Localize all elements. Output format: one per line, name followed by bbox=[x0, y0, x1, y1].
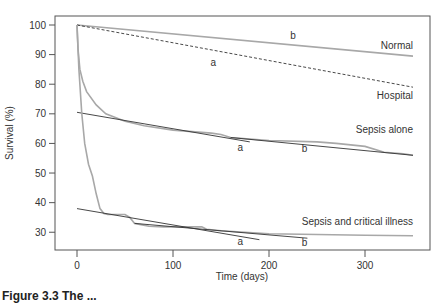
annotation-label: Hospital bbox=[377, 90, 413, 101]
annotation-label: a bbox=[211, 57, 217, 68]
annotation-label: Sepsis and critical illness bbox=[302, 216, 413, 227]
series-sepsis-alone-fit-b bbox=[231, 138, 413, 156]
annotation-label: Sepsis alone bbox=[356, 124, 414, 135]
annotation-label: a bbox=[237, 142, 243, 153]
x-tick-label: 200 bbox=[261, 260, 278, 271]
y-tick-label: 40 bbox=[35, 197, 47, 208]
y-tick-label: 80 bbox=[35, 79, 47, 90]
annotation-label: b bbox=[290, 30, 296, 41]
series-sepsis-and-critical-illness-fit-a bbox=[77, 209, 259, 240]
series-sepsis-alone-fit-a bbox=[77, 112, 250, 142]
series-sepsis-and-critical-illness-fit-b bbox=[135, 223, 308, 238]
series-hospital bbox=[77, 25, 413, 87]
y-axis-label: Survival (%) bbox=[4, 106, 15, 160]
figure-caption: Figure 3.3 The ... bbox=[2, 289, 97, 303]
annotation-label: Normal bbox=[381, 40, 413, 51]
x-axis-label: Time (days) bbox=[216, 271, 268, 282]
y-tick-label: 70 bbox=[35, 108, 47, 119]
annotation-label: b bbox=[302, 237, 308, 248]
x-tick-label: 100 bbox=[165, 260, 182, 271]
x-tick-label: 0 bbox=[74, 260, 80, 271]
y-axis: 30405060708090100 bbox=[29, 20, 55, 238]
series-sepsis-alone bbox=[77, 25, 413, 155]
x-tick-label: 300 bbox=[357, 260, 374, 271]
x-axis: 0100200300 bbox=[74, 250, 374, 271]
annotation-label: a bbox=[237, 236, 243, 247]
series-normal bbox=[77, 25, 413, 56]
y-tick-label: 30 bbox=[35, 227, 47, 238]
y-tick-label: 60 bbox=[35, 138, 47, 149]
annotation-label: b bbox=[302, 143, 308, 154]
y-tick-label: 90 bbox=[35, 49, 47, 60]
y-tick-label: 100 bbox=[29, 20, 46, 31]
y-tick-label: 50 bbox=[35, 168, 47, 179]
